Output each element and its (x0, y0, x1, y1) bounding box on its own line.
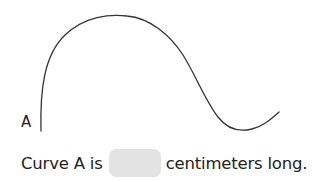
curve-a-label: A (21, 113, 31, 131)
question-suffix: centimeters long. (166, 154, 308, 173)
question-sentence: Curve A is centimeters long. (21, 149, 307, 177)
question-prefix: Curve A is (21, 154, 103, 173)
curve-a-path (41, 15, 279, 131)
answer-input-box[interactable] (109, 149, 161, 177)
